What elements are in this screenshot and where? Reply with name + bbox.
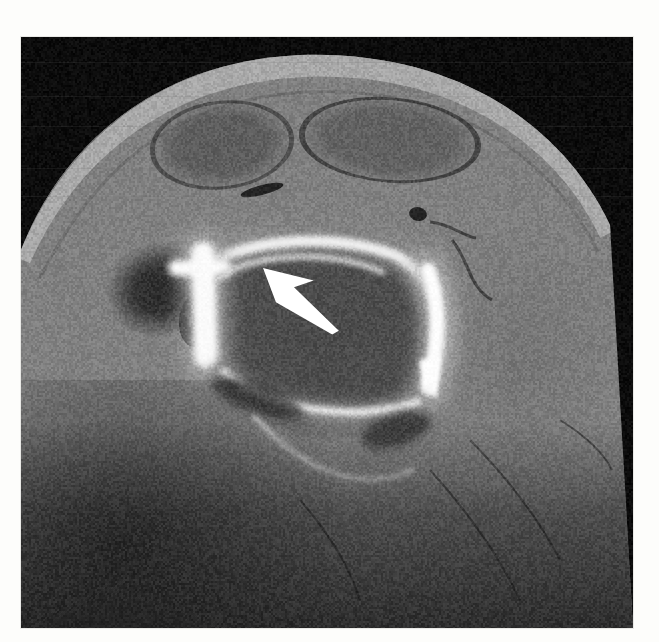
mri-scan-plate (21, 37, 633, 628)
mri-image-canvas (21, 37, 633, 628)
screenshot-root: Axial T1-weighted fat-saturated MR arthr… (0, 0, 659, 642)
